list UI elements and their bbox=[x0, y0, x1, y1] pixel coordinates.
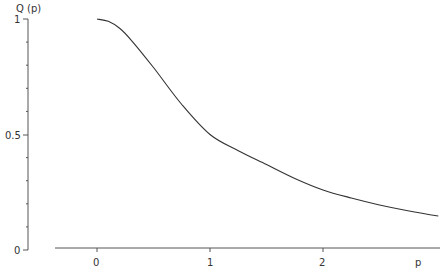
x-axis-title: p bbox=[415, 257, 421, 268]
x-tick-label-1: 1 bbox=[207, 257, 213, 268]
q-of-p-curve bbox=[97, 19, 438, 216]
x-tick-label-2: 2 bbox=[319, 257, 325, 268]
y-axis-title: Q (p) bbox=[16, 3, 41, 14]
x-tick-label-0: 0 bbox=[93, 257, 99, 268]
y-tick-label-1: 1 bbox=[14, 14, 20, 25]
y-tick-label-0: 0 bbox=[14, 245, 20, 256]
chart-canvas: Q (p) 1 0.5 0 0 1 2 p bbox=[0, 0, 448, 273]
x-axis: 0 1 2 p bbox=[55, 248, 440, 268]
y-tick-label-0.5: 0.5 bbox=[5, 130, 21, 141]
y-axis: Q (p) 1 0.5 0 bbox=[5, 3, 41, 256]
